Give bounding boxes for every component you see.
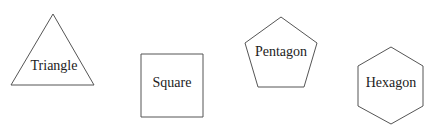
hexagon-label: Hexagon — [366, 75, 417, 90]
triangle-outline — [11, 14, 94, 85]
shapes-diagram: Triangle Square Pentagon Hexagon — [0, 0, 437, 135]
triangle-label: Triangle — [31, 58, 78, 73]
square-shape: Square — [141, 54, 203, 117]
pentagon-label: Pentagon — [255, 44, 307, 59]
pentagon-shape: Pentagon — [245, 17, 317, 87]
square-label: Square — [153, 75, 192, 90]
hexagon-shape: Hexagon — [358, 47, 423, 124]
triangle-shape: Triangle — [11, 14, 94, 85]
